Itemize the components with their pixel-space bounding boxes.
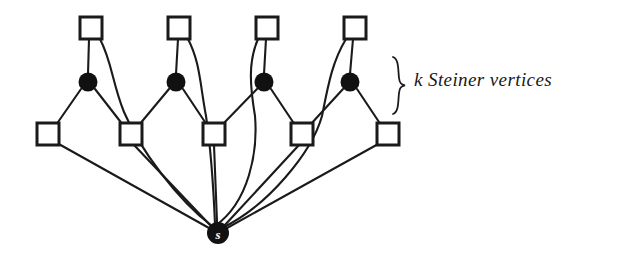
curly-brace-path (393, 57, 405, 114)
top-terminal-nodes (80, 17, 366, 39)
edge-t3-v3 (222, 89, 257, 125)
steiner-vertex-circle (79, 73, 98, 92)
curved-edge-u4-s (222, 39, 346, 228)
edge-u4-t4 (350, 39, 353, 74)
root-node-label: s (214, 227, 220, 242)
edge-v4-s (224, 145, 299, 226)
bottom-terminal-square (37, 123, 59, 145)
top-terminal-square (256, 17, 278, 39)
steiner-vertices-label: k Steiner vertices (414, 69, 552, 91)
edge-u2-t2 (176, 39, 178, 74)
edges-steiner-to-bottom (56, 89, 381, 125)
edge-u1-t1 (88, 39, 89, 74)
curly-brace (393, 57, 405, 114)
edges-bottom-to-root (57, 143, 380, 228)
bottom-terminal-square (203, 123, 225, 145)
bottom-terminal-square (377, 123, 399, 145)
steiner-vertex-circle (255, 73, 274, 92)
bottom-terminal-nodes (37, 123, 399, 145)
edges-top-to-steiner (88, 39, 353, 74)
edge-t3-v4 (271, 89, 295, 125)
edge-u3-t3 (264, 39, 266, 74)
edge-v1-s (57, 143, 209, 228)
top-terminal-square (168, 17, 190, 39)
bottom-terminal-square (120, 123, 142, 145)
steiner-tree-figure: s k Steiner vertices (0, 0, 627, 256)
edge-t2-v2 (139, 89, 169, 125)
steiner-vertex-circle (167, 73, 186, 92)
top-terminal-square (344, 17, 366, 39)
top-terminal-square (80, 17, 102, 39)
bottom-terminal-square (291, 123, 313, 145)
steiner-vertex-circle (341, 73, 360, 92)
edge-t4-v5 (357, 89, 381, 125)
steiner-vertex-nodes (79, 73, 360, 92)
root-node-s: s (207, 222, 229, 244)
edge-t1-v1 (56, 89, 81, 125)
edge-v2-s (134, 145, 211, 226)
graph-canvas: s (0, 0, 627, 256)
